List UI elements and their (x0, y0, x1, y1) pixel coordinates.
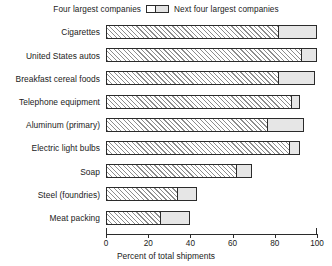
category-label: Soap (80, 167, 100, 177)
bar-segment-four-largest (106, 141, 290, 155)
x-axis-tick (317, 234, 318, 238)
bar-segment-four-largest (106, 118, 268, 132)
category-axis: CigarettesUnited States autosBreakfast c… (0, 18, 104, 232)
x-axis-label: Percent of total shipments (0, 251, 332, 261)
bar-segment-four-largest (106, 187, 178, 201)
legend-label-next-four-largest: Next four largest companies (174, 5, 279, 14)
legend-swatch-hatch (147, 6, 156, 12)
category-label: Cigarettes (61, 27, 100, 37)
bar-segment-four-largest (106, 25, 279, 39)
legend-label-four-largest: Four largest companies (53, 5, 141, 14)
bar-segment-four-largest (106, 211, 161, 225)
x-axis-tick-label: 20 (144, 239, 153, 248)
x-axis-tick (106, 234, 107, 238)
plot-area (106, 18, 317, 232)
bar-segment-four-largest (106, 71, 279, 85)
category-label: United States autos (26, 51, 100, 61)
x-axis-tick-label: 60 (228, 239, 237, 248)
x-axis-tick (275, 234, 276, 238)
category-label: Breakfast cereal foods (16, 74, 100, 84)
x-axis-tick (148, 234, 149, 238)
bar-chart: CigarettesUnited States autosBreakfast c… (0, 18, 332, 266)
x-axis-line (106, 234, 317, 235)
legend-swatch-icon (146, 5, 169, 13)
bar-segment-four-largest (106, 164, 237, 178)
chart-legend: Four largest companies Next four largest… (0, 0, 332, 18)
category-label: Electric light bulbs (32, 143, 101, 153)
x-axis-tick (190, 234, 191, 238)
x-axis-tick (233, 234, 234, 238)
legend-swatch-plain (156, 6, 168, 12)
category-label: Aluminum (primary) (26, 120, 100, 130)
category-label: Meat packing (50, 213, 100, 223)
bar-segment-four-largest (106, 48, 302, 62)
x-axis-tick-label: 40 (186, 239, 195, 248)
category-label: Telephone equipment (19, 97, 100, 107)
x-axis-tick-label: 100 (310, 239, 324, 248)
bar-segment-four-largest (106, 95, 292, 109)
x-axis-tick-label: 0 (104, 239, 109, 248)
category-label: Steel (foundries) (38, 190, 100, 200)
x-axis-tick-label: 80 (270, 239, 279, 248)
